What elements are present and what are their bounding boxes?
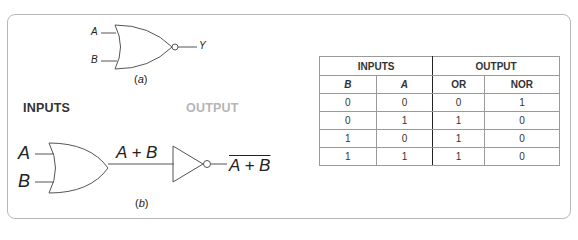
- cell-b: 1: [320, 130, 377, 148]
- column-header-a: A: [376, 76, 433, 94]
- cell-b: 1: [320, 148, 377, 166]
- cell-nor: 0: [484, 130, 559, 148]
- output-expression: A + B: [229, 156, 270, 176]
- output-section-label: OUTPUT: [186, 101, 239, 115]
- cell-b: 0: [320, 112, 377, 130]
- table-row: 1 0 1 0: [320, 130, 560, 148]
- column-header-nor: NOR: [484, 76, 559, 94]
- cell-nor: 0: [484, 112, 559, 130]
- inputs-section-label: INPUTS: [23, 101, 70, 115]
- group-header-row: INPUTS OUTPUT: [320, 57, 560, 76]
- table-row: 0 1 1 0: [320, 112, 560, 130]
- inputs-group-header: INPUTS: [320, 57, 433, 76]
- cell-a: 1: [376, 148, 433, 166]
- nor-input-a-label: A: [91, 26, 98, 37]
- cell-or: 1: [433, 112, 485, 130]
- cell-nor: 0: [484, 148, 559, 166]
- cell-a: 0: [376, 130, 433, 148]
- table-row: 1 1 1 0: [320, 148, 560, 166]
- caption-b: (b): [135, 197, 148, 209]
- cell-nor: 1: [484, 94, 559, 112]
- truth-table: INPUTS OUTPUT B A OR NOR 0 0 0 1 0 1 1 0…: [319, 56, 560, 166]
- nor-gate-symbol: [101, 25, 197, 69]
- column-header-b: B: [320, 76, 377, 94]
- cell-a: 0: [376, 94, 433, 112]
- output-group-header: OUTPUT: [433, 57, 560, 76]
- table-row: 0 0 0 1: [320, 94, 560, 112]
- or-input-a-label: A: [18, 143, 30, 164]
- caption-a: (a): [134, 73, 147, 85]
- not-gate-symbol: [173, 146, 227, 182]
- nor-input-b-label: B: [91, 54, 98, 65]
- cell-or: 1: [433, 130, 485, 148]
- nor-output-y-label: Y: [199, 40, 206, 51]
- or-input-b-label: B: [18, 171, 30, 192]
- column-header-or: OR: [433, 76, 485, 94]
- cell-or: 0: [433, 94, 485, 112]
- column-header-row: B A OR NOR: [320, 76, 560, 94]
- cell-or: 1: [433, 148, 485, 166]
- cell-a: 1: [376, 112, 433, 130]
- cell-b: 0: [320, 94, 377, 112]
- intermediate-expression: A + B: [116, 143, 157, 163]
